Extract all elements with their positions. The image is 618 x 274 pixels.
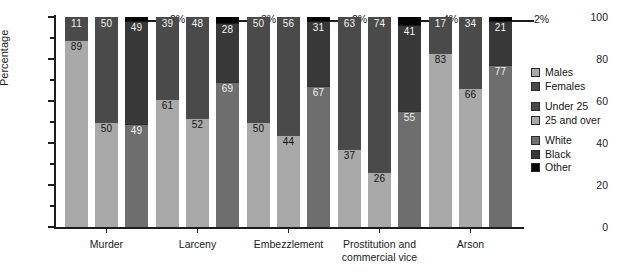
bar-segment[interactable]: 67 [307, 86, 330, 227]
chart-legend: MalesFemalesUnder 2525 and overWhiteBlac… [531, 66, 617, 175]
legend-item-label: Other [545, 162, 571, 173]
bar-segment[interactable]: 89 [65, 40, 88, 227]
x-axis-label: Arson [411, 238, 531, 251]
legend-item[interactable]: 25 and over [531, 114, 617, 128]
bar-segment[interactable]: 39 [156, 17, 179, 99]
segment-value-label: 61 [162, 99, 174, 111]
segment-value-label: 50 [253, 122, 265, 134]
bar-segment[interactable]: 37 [338, 149, 361, 227]
segment-value-label: 34 [465, 17, 477, 29]
bar-segment[interactable]: 41 [398, 25, 421, 111]
segment-value-label: 63 [344, 17, 356, 29]
bar-segment[interactable]: 17 [429, 17, 452, 53]
bar-segment[interactable]: 50 [95, 122, 118, 227]
bar-segment[interactable]: 50 [95, 17, 118, 122]
legend-item-label: Males [545, 67, 573, 78]
segment-value-label: 21 [495, 21, 507, 33]
bar-segment[interactable]: 55 [398, 111, 421, 227]
segment-value-label: 50 [101, 17, 113, 29]
stacked-bar-age[interactable]: 5050 [95, 17, 118, 227]
bar-segment[interactable] [398, 17, 421, 25]
x-tick [106, 227, 108, 233]
stacked-bar-race[interactable]: 3167 [307, 17, 330, 227]
bar-segment[interactable]: 52 [186, 118, 209, 227]
bar-segment[interactable]: 28 [216, 23, 239, 82]
bar-segment[interactable]: 77 [489, 65, 512, 227]
legend-item[interactable]: Males [531, 66, 617, 80]
x-tick [379, 227, 381, 233]
bar-segment[interactable]: 21 [489, 21, 512, 65]
stacked-bar-race[interactable]: 2869 [216, 17, 239, 227]
y-tick-minor [50, 37, 54, 39]
segment-value-label: 66 [465, 88, 477, 100]
y-tick-label: 100 [590, 12, 608, 22]
stacked-bar-race[interactable]: 2177 [489, 17, 512, 227]
segment-value-label: 11 [71, 17, 82, 29]
segment-value-label: 77 [495, 65, 507, 77]
legend-swatch-icon [531, 150, 540, 159]
stacked-bar-age[interactable]: 3466 [459, 17, 482, 227]
stacked-bar-age[interactable]: 5644 [277, 17, 300, 227]
segment-value-label: 67 [313, 86, 325, 98]
y-tick-major [48, 100, 54, 102]
stacked-bar-sex[interactable]: 5050 [247, 17, 270, 227]
bar-group: 178334662177 [429, 17, 545, 227]
legend-swatch-icon [531, 163, 540, 172]
x-tick [197, 227, 199, 233]
segment-value-label: 50 [101, 122, 113, 134]
segment-value-label: 56 [283, 17, 295, 29]
stacked-bar-age[interactable]: 4852 [186, 17, 209, 227]
segment-value-label: 83 [435, 53, 447, 65]
stacked-bar-sex[interactable]: 6337 [338, 17, 361, 227]
bar-segment[interactable]: 50 [247, 17, 270, 122]
segment-value-label: 55 [404, 111, 416, 123]
bar-segment[interactable]: 34 [459, 17, 482, 88]
bar-segment[interactable]: 31 [307, 21, 330, 86]
legend-item[interactable]: Under 25 [531, 100, 617, 114]
segment-value-label: 26 [374, 172, 386, 184]
y-tick-minor [50, 205, 54, 207]
bar-segment[interactable]: 66 [459, 88, 482, 227]
segment-value-label: 41 [404, 25, 416, 37]
bar-segment[interactable]: 11 [65, 17, 88, 40]
bar-segment[interactable]: 69 [216, 82, 239, 227]
segment-value-label: 50 [253, 17, 265, 29]
bar-segment[interactable]: 48 [186, 17, 209, 118]
bar-segment[interactable]: 74 [368, 17, 391, 172]
legend-swatch-icon [531, 68, 540, 77]
stacked-bar-sex[interactable]: 1783 [429, 17, 452, 227]
bar-segment[interactable]: 56 [277, 17, 300, 135]
y-tick-major [48, 58, 54, 60]
stacked-bar-sex[interactable]: 3961 [156, 17, 179, 227]
bar-segment[interactable]: 50 [247, 122, 270, 227]
y-tick-major [48, 16, 54, 18]
segment-value-label: 17 [435, 17, 447, 29]
plot-area: 2%1189505049493%3961485228692%5050564431… [55, 17, 520, 227]
stacked-bar-age[interactable]: 7426 [368, 17, 391, 227]
stacked-bar-race[interactable]: 4155 [398, 17, 421, 227]
legend-item[interactable]: Black [531, 148, 617, 162]
segment-value-label: 31 [313, 21, 325, 33]
segment-value-label: 28 [222, 23, 234, 35]
bar-segment[interactable]: 49 [125, 21, 148, 124]
legend-item-label: Black [545, 149, 571, 160]
legend-item[interactable]: Other [531, 161, 617, 175]
bar-segment[interactable]: 26 [368, 172, 391, 227]
y-tick-minor [50, 163, 54, 165]
legend-swatch-icon [531, 116, 540, 125]
y-tick-major [48, 226, 54, 228]
legend-swatch-icon [531, 82, 540, 91]
segment-value-label: 69 [222, 82, 234, 94]
bar-segment[interactable]: 63 [338, 17, 361, 149]
legend-item[interactable]: Females [531, 80, 617, 94]
bar-segment[interactable]: 49 [125, 124, 148, 227]
stacked-bar-sex[interactable]: 1189 [65, 17, 88, 227]
stacked-bar-race[interactable]: 4949 [125, 17, 148, 227]
bar-segment[interactable]: 83 [429, 53, 452, 227]
bar-segment[interactable]: 61 [156, 99, 179, 227]
legend-item[interactable]: White [531, 134, 617, 148]
legend-item-label: White [545, 135, 572, 146]
y-tick-major [48, 142, 54, 144]
bar-segment[interactable]: 44 [277, 135, 300, 227]
segment-value-label: 48 [192, 17, 204, 29]
